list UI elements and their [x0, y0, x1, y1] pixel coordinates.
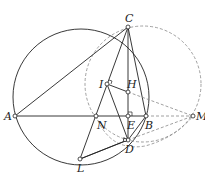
label-i: I: [98, 78, 104, 91]
label-m: M: [195, 110, 205, 123]
point-c: [126, 25, 130, 29]
label-c: C: [125, 12, 134, 25]
label-a: A: [3, 110, 12, 123]
point-b: [144, 114, 148, 118]
point-e: [126, 114, 130, 118]
point-i: [105, 82, 109, 86]
point-l: [78, 157, 82, 161]
label-b: B: [144, 119, 153, 132]
label-l: L: [76, 162, 84, 175]
point-a: [13, 114, 17, 118]
point-d2: [123, 138, 126, 141]
geometry-diagram: C A N E B M I H D L: [0, 0, 205, 177]
label-h: H: [126, 78, 137, 91]
label-e: E: [126, 119, 135, 132]
point-m: [191, 114, 195, 118]
label-n: N: [96, 119, 107, 132]
point-n: [94, 114, 98, 118]
label-d: D: [124, 143, 134, 156]
